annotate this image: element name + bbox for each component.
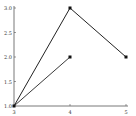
x-tick-label: 5 bbox=[124, 109, 127, 115]
x-tick-label: 3 bbox=[12, 109, 15, 115]
line-chart: 3.0 2.5 2.0 1.5 1.0 3 4 5 bbox=[0, 0, 136, 116]
y-tick-label: 2.0 bbox=[4, 54, 12, 60]
series-2-line bbox=[14, 57, 70, 106]
y-tick-label: 1.0 bbox=[4, 103, 12, 109]
y-tick-label: 2.5 bbox=[4, 30, 12, 36]
x-tick-label: 4 bbox=[68, 109, 71, 115]
y-tick-label: 3.0 bbox=[4, 5, 12, 11]
y-tick-label: 1.5 bbox=[4, 79, 12, 85]
